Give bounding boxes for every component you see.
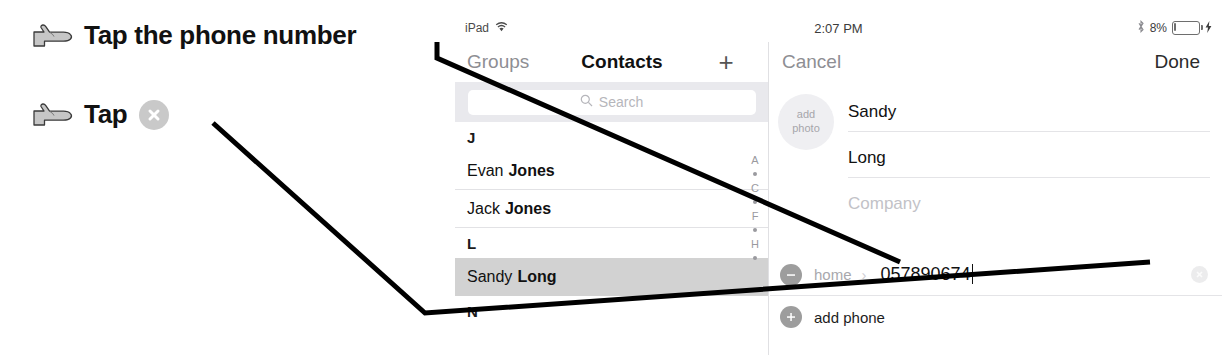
annotation-1: Tap the phone number (28, 20, 356, 51)
annotation-2: Tap (28, 99, 169, 130)
clear-circle-x-icon (139, 100, 169, 130)
annotation-overlay: Tap the phone number Tap (0, 0, 1222, 355)
pointing-hand-icon (28, 21, 74, 51)
annotation-1-text: Tap the phone number (84, 20, 356, 51)
pointing-hand-icon (28, 100, 74, 130)
annotation-2-text: Tap (84, 99, 127, 130)
